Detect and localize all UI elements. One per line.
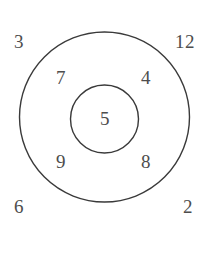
ring-label-lower-right: 8 xyxy=(141,152,151,171)
center-label: 5 xyxy=(100,109,110,128)
ring-label-upper-left: 7 xyxy=(56,68,66,87)
outside-label-top-left: 3 xyxy=(14,32,24,51)
outside-label-bottom-right: 2 xyxy=(183,197,193,216)
outside-label-bottom-left: 6 xyxy=(14,197,24,216)
ring-label-lower-left: 9 xyxy=(56,152,66,171)
ring-label-upper-right: 4 xyxy=(141,68,151,87)
nested-circles-diagram: 3 12 6 2 7 4 9 8 5 xyxy=(0,0,208,259)
outside-label-top-right: 12 xyxy=(175,32,195,51)
